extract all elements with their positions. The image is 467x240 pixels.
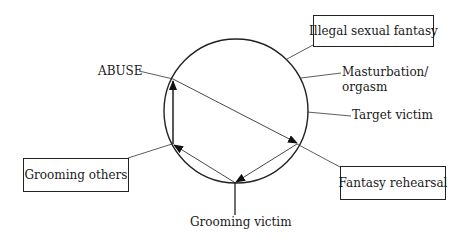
arrow-abuse-to-rehearsal [173,79,297,143]
box-fantasy-rehearsal: Fantasy rehearsal [340,166,446,200]
leader-fantasy-rehearsal [297,144,340,167]
label-abuse: ABUSE [98,64,143,79]
arrow-grooming-victim-to-others [174,145,234,182]
abuse-line [139,71,173,79]
leader-target-victim [307,112,351,116]
leader-illegal-fantasy [287,45,313,59]
box-illegal-sexual-fantasy: Illegal sexual fantasy [313,15,434,47]
box-label: Fantasy rehearsal [339,176,448,190]
box-label: Illegal sexual fantasy [309,24,438,38]
label-line: Masturbation/ [342,65,428,80]
label-target-victim: Target victim [352,108,433,123]
label-grooming-victim: Grooming victim [190,215,292,230]
box-grooming-others: Grooming others [23,158,129,192]
leader-masturbation [301,73,341,78]
label-line: orgasm [342,80,428,95]
box-label: Grooming others [25,168,128,182]
leader-grooming-others [128,144,172,158]
label-masturbation-orgasm: Masturbation/ orgasm [342,65,428,95]
cycle-circle [164,39,308,183]
